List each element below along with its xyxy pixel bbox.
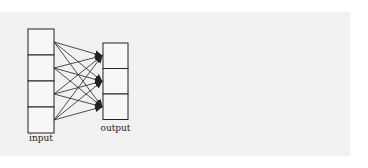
connection-arrow	[54, 107, 102, 120]
input-cell	[28, 81, 54, 107]
connection-arrow	[54, 42, 102, 56]
diagram-canvas: input output	[0, 0, 368, 168]
input-layer	[28, 29, 54, 133]
output-cell	[103, 69, 128, 95]
connections-group	[54, 42, 102, 120]
input-cell	[28, 107, 54, 133]
output-cell	[103, 43, 128, 69]
output-layer-label: output	[100, 123, 130, 133]
input-layer-label: input	[29, 133, 53, 143]
input-cell	[28, 29, 54, 55]
input-cell	[28, 55, 54, 81]
output-layer	[103, 43, 128, 120]
output-cell	[103, 94, 128, 120]
network-diagram: input output	[0, 0, 368, 168]
